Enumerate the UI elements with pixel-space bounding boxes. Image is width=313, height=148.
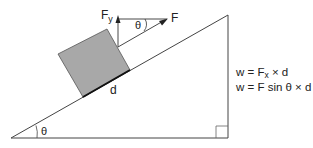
angle-arc-bottom xyxy=(36,126,37,139)
force-vector xyxy=(118,20,165,47)
angle-label-bottom: θ xyxy=(41,125,47,137)
inclined-plane-diagram: θ d θ F Fy w = Fx × d w = F sin θ × d xyxy=(0,0,313,148)
equation-line-1: w = Fx × d xyxy=(235,66,288,80)
force-y-label: Fy xyxy=(101,8,113,24)
force-label: F xyxy=(171,11,178,25)
angle-arc-top xyxy=(144,19,147,31)
force-arrowhead-icon xyxy=(159,19,168,26)
angle-label-top: θ xyxy=(135,19,141,31)
right-angle-marker xyxy=(216,126,228,138)
distance-label: d xyxy=(110,83,117,97)
block xyxy=(58,29,130,97)
equation-line-2: w = F sin θ × d xyxy=(235,81,311,93)
